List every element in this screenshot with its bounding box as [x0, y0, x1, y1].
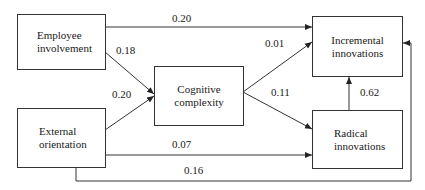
node-incremental-innovations: Incremental innovations	[312, 16, 403, 77]
node-label-line: Radical	[334, 127, 385, 140]
edge-cognitive-incremental	[243, 42, 312, 92]
node-label-line: innovations	[331, 47, 384, 60]
node-label-line: Employee	[37, 29, 92, 42]
edge-label-radical-incremental: 0.62	[360, 86, 379, 98]
edge-label-eo-radical: 0.07	[172, 138, 191, 150]
node-cognitive-complexity: Cognitive complexity	[154, 66, 244, 126]
edge-label-eo-cognitive: 0.20	[112, 88, 131, 100]
node-label-line: Cognitive	[174, 83, 224, 96]
node-label-line: complexity	[174, 96, 224, 109]
node-label-line: involvement	[37, 42, 92, 55]
node-employee-involvement: Employee involvement	[17, 14, 106, 70]
edge-label-ei-incremental: 0.20	[172, 12, 191, 24]
node-label-line: orientation	[39, 138, 87, 151]
node-label-line: innovations	[334, 140, 385, 153]
edge-label-cognitive-incremental: 0.01	[265, 37, 284, 49]
node-radical-innovations: Radical innovations	[312, 110, 403, 169]
edge-label-cognitive-radical: 0.11	[271, 86, 290, 98]
node-label-line: External	[39, 125, 87, 138]
edge-eo-cognitive	[105, 96, 154, 130]
node-external-orientation: External orientation	[17, 108, 106, 168]
node-label-line: Incremental	[331, 34, 384, 47]
edge-label-eo-incremental: 0.16	[184, 164, 203, 176]
edge-label-ei-cognitive: 0.18	[116, 44, 135, 56]
